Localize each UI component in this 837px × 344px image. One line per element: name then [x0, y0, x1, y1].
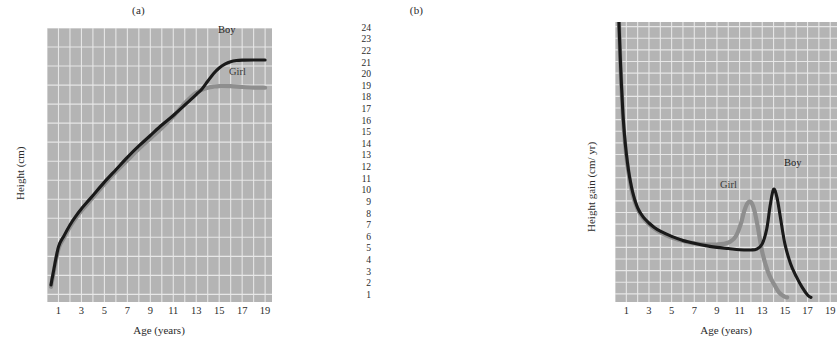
- y-tick: 23: [361, 34, 371, 43]
- x-tick: 11: [735, 305, 745, 316]
- curves-b: [615, 22, 837, 302]
- y-tick: 12: [361, 162, 371, 171]
- y-tick: 15: [361, 127, 371, 136]
- y-tick: 24: [361, 22, 371, 31]
- x-axis-title-a: Age (years): [133, 324, 185, 336]
- x-tick: 5: [669, 305, 674, 316]
- y-tick: 3: [366, 266, 371, 275]
- x-tick: 11: [168, 305, 178, 316]
- y-tick: 14: [361, 138, 371, 147]
- y-tick: 16: [361, 115, 371, 124]
- series-label-girl-a: Girl: [229, 66, 246, 77]
- panel-a-height: (a) Boy Girl 506070809010011012013014015…: [0, 0, 285, 344]
- x-axis-title-b: Age (years): [700, 324, 752, 336]
- x-tick: 17: [802, 305, 813, 316]
- x-tick: 13: [757, 305, 768, 316]
- y-tick: 13: [361, 150, 371, 159]
- y-tick: 7: [366, 220, 371, 229]
- y-tick: 21: [361, 57, 371, 66]
- y-tick: 17: [361, 103, 371, 112]
- x-tick: 1: [56, 305, 61, 316]
- x-tick: 19: [825, 305, 836, 316]
- y-tick: 22: [361, 45, 371, 54]
- x-tick: 9: [714, 305, 719, 316]
- x-tick: 17: [237, 305, 248, 316]
- y-tick: 18: [361, 92, 371, 101]
- plot-area-b: Girl Boy: [615, 22, 837, 302]
- series-label-boy-b: Boy: [784, 157, 802, 168]
- y-tick: 6: [366, 231, 371, 240]
- x-tick: 1: [624, 305, 629, 316]
- x-tick: 9: [148, 305, 153, 316]
- y-axis-ticks-b: 123456789101112131415161718192021222324: [285, 0, 615, 344]
- y-tick: 8: [366, 208, 371, 217]
- y-axis-title-a: Height (cm): [14, 147, 26, 200]
- x-tick: 3: [646, 305, 651, 316]
- series-label-boy-a: Boy: [218, 24, 236, 35]
- y-tick: 19: [361, 80, 371, 89]
- y-tick: 1: [366, 289, 371, 298]
- y-tick: 9: [366, 196, 371, 205]
- boy-height-curve: [51, 60, 265, 285]
- x-tick: 19: [260, 305, 271, 316]
- panel-b-height-gain: (b) Girl Boy 123456789101112131415161718…: [285, 0, 570, 344]
- y-tick: 5: [366, 243, 371, 252]
- x-tick: 15: [780, 305, 791, 316]
- x-tick: 3: [79, 305, 84, 316]
- plot-area-a: Boy Girl: [47, 28, 272, 302]
- y-tick: 20: [361, 69, 371, 78]
- y-tick: 2: [366, 278, 371, 287]
- boy-height-gain-curve: [619, 22, 811, 297]
- x-tick: 15: [214, 305, 225, 316]
- y-tick: 11: [362, 173, 371, 182]
- series-label-girl-b: Girl: [720, 179, 737, 190]
- curves-b-svg: [615, 22, 837, 302]
- y-tick: 4: [366, 255, 371, 264]
- girl-height-curve: [51, 86, 265, 287]
- x-tick: 13: [191, 305, 202, 316]
- girl-height-gain-curve: [619, 22, 787, 297]
- x-tick: 7: [125, 305, 130, 316]
- x-tick: 5: [102, 305, 107, 316]
- y-tick: 10: [361, 185, 371, 194]
- x-tick: 7: [692, 305, 697, 316]
- y-axis-title-b: Height gain (cm/ yr): [585, 142, 597, 232]
